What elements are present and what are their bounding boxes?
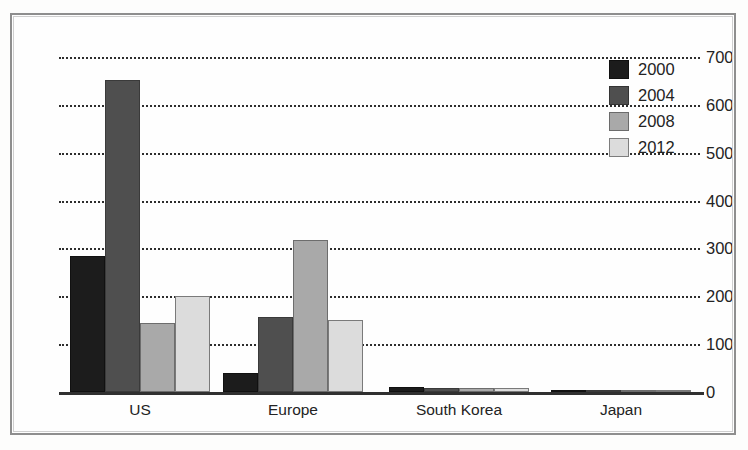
plot-area — [59, 57, 700, 393]
bar-group — [389, 57, 529, 392]
y-tick-label-700: 700 — [706, 48, 746, 67]
legend-swatch-icon — [609, 86, 629, 105]
x-axis-tick-labels: USEuropeSouth KoreaJapan — [59, 401, 700, 427]
bar — [293, 240, 328, 392]
y-tick-label-100: 100 — [706, 335, 746, 354]
y-tick-label-200: 200 — [706, 287, 746, 306]
chart-legend: 2000200420082012 — [609, 57, 701, 161]
legend-label: 2004 — [638, 86, 675, 105]
chart-figure: 0100200300400500600700 USEuropeSouth Kor… — [0, 0, 748, 450]
legend-swatch-icon — [609, 112, 629, 131]
bar-group — [70, 57, 210, 392]
y-tick-label-600: 600 — [706, 95, 746, 114]
y-tick-label-400: 400 — [706, 191, 746, 210]
x-tick-label: Japan — [600, 401, 642, 419]
x-tick-label: South Korea — [416, 401, 502, 419]
bar — [258, 317, 293, 392]
bar — [140, 323, 175, 392]
y-tick-label-0: 0 — [706, 383, 746, 402]
y-tick-label-300: 300 — [706, 239, 746, 258]
figure-border: 0100200300400500600700 USEuropeSouth Kor… — [10, 13, 736, 435]
legend-swatch-icon — [609, 60, 629, 79]
legend-swatch-icon — [609, 138, 629, 157]
legend-item: 2012 — [609, 135, 701, 160]
bar-series-container — [59, 57, 700, 392]
bar — [175, 296, 210, 392]
legend-item: 2004 — [609, 83, 701, 108]
bar-group — [223, 57, 363, 392]
bar — [70, 256, 105, 392]
legend-item: 2008 — [609, 109, 701, 134]
bar — [328, 320, 363, 392]
bar — [105, 80, 140, 393]
bar — [223, 373, 258, 392]
y-tick-label-500: 500 — [706, 143, 746, 162]
legend-label: 2012 — [638, 138, 675, 157]
legend-label: 2008 — [638, 112, 675, 131]
x-axis-line — [59, 392, 704, 395]
x-tick-label: US — [129, 401, 151, 419]
legend-item: 2000 — [609, 57, 701, 82]
x-tick-label: Europe — [268, 401, 318, 419]
y-axis-tick-labels: 0100200300400500600700 — [706, 57, 748, 397]
legend-label: 2000 — [638, 60, 675, 79]
